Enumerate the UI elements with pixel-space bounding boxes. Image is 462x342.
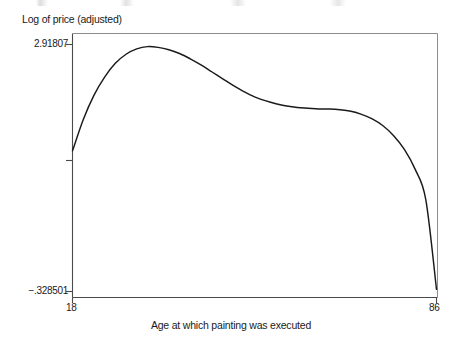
data-line-log-price (73, 47, 437, 290)
chart-figure: Log of price (adjusted) 2.91807 −.328501… (0, 0, 462, 342)
plot-area (0, 0, 462, 342)
axis-frame (73, 34, 438, 298)
tick-marks (66, 45, 437, 304)
